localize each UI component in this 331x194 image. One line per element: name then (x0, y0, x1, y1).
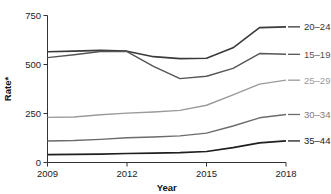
x-tick-label: 2015 (196, 168, 217, 179)
series-line-30-34 (48, 114, 287, 140)
y-tick-label: 0 (36, 157, 41, 168)
legend-label-35-44: 35–44 (304, 135, 330, 146)
legend-label-25-29: 25–29 (304, 75, 330, 86)
x-tick-label: 2012 (116, 168, 137, 179)
series-line-35-44 (48, 141, 287, 155)
legend-label-20-24: 20–24 (304, 21, 330, 32)
chart-figure: 02505007502009201220152018YearRate*20–24… (0, 0, 331, 194)
x-tick-label: 2009 (37, 168, 58, 179)
y-axis-title: Rate* (2, 77, 13, 102)
series-line-25-29 (48, 80, 287, 117)
legend-label-15-19: 15–19 (304, 49, 330, 60)
series-line-15-19 (48, 52, 287, 79)
y-tick-label: 250 (25, 108, 41, 119)
y-tick-label: 500 (25, 59, 41, 70)
legend-label-30-34: 30–34 (304, 109, 330, 120)
line-chart: 02505007502009201220152018YearRate*20–24… (0, 0, 331, 194)
x-tick-label: 2018 (275, 168, 296, 179)
y-tick-label: 750 (25, 10, 41, 21)
x-axis-title: Year (157, 182, 177, 193)
